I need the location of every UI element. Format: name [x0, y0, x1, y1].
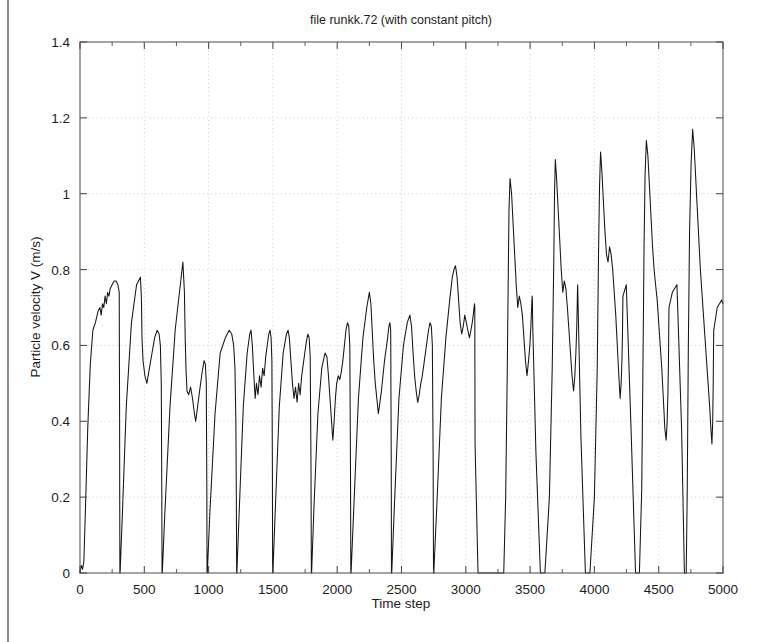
y-tick-label: 0: [62, 566, 70, 581]
x-tick-label: 0: [76, 582, 84, 597]
x-tick-label: 2500: [386, 582, 416, 597]
y-tick-label: 1: [62, 187, 70, 202]
x-axis-title: Time step: [372, 596, 431, 611]
chart-title: file runkk.72 (with constant pitch): [310, 13, 492, 27]
x-tick-label: 4500: [644, 582, 674, 597]
y-tick-label: 1.4: [51, 35, 70, 50]
x-tick-label: 3500: [515, 582, 545, 597]
scanned-page: file runkk.72 (with constant pitch): [0, 0, 758, 642]
x-tick-label: 4000: [579, 582, 609, 597]
chart-svg: file runkk.72 (with constant pitch): [0, 0, 758, 642]
y-tick-label: 0.6: [51, 338, 70, 353]
y-tick-label: 1.2: [51, 111, 70, 126]
x-tick-label: 1500: [258, 582, 288, 597]
x-tick-label: 1000: [194, 582, 224, 597]
x-tick-label: 5000: [708, 582, 738, 597]
x-tick-label: 2000: [322, 582, 352, 597]
x-tick-label: 3000: [451, 582, 481, 597]
y-axis-title: Particle velocity V (m/s): [28, 236, 43, 377]
y-tick-label: 0.4: [51, 414, 70, 429]
y-tick-label: 0.2: [51, 490, 70, 505]
chart-figure: file runkk.72 (with constant pitch): [0, 0, 758, 642]
y-tick-label: 0.8: [51, 263, 70, 278]
x-tick-label: 500: [133, 582, 156, 597]
